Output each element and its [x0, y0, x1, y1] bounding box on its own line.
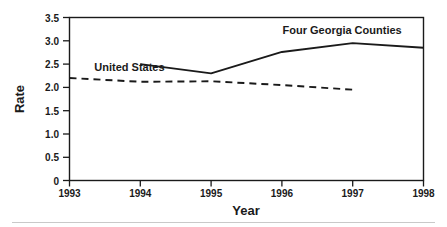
series-label-united-states: United States — [94, 61, 164, 73]
rate-by-year-line-chart: 3.5 3.0 2.5 2.0 1.5 1.0 0.5 0 1993 1994 … — [0, 0, 447, 227]
x-tick-label-1998: 1998 — [412, 188, 435, 199]
x-tick-label-1995: 1995 — [200, 188, 223, 199]
y-tick-label-3-0: 3.0 — [45, 36, 59, 47]
y-tick-label-2-5: 2.5 — [45, 59, 59, 70]
series-label-four-georgia-counties: Four Georgia Counties — [283, 24, 402, 36]
x-axis-tick-labels: 1993 1994 1995 1996 1997 1998 — [58, 188, 435, 199]
series-line-united-states — [70, 78, 353, 90]
y-tick-label-1-5: 1.5 — [45, 106, 59, 117]
y-tick-label-0-5: 0.5 — [45, 152, 59, 163]
series-line-four-georgia-counties — [140, 43, 423, 73]
x-tick-label-1993: 1993 — [58, 188, 81, 199]
y-tick-label-1-0: 1.0 — [45, 129, 59, 140]
plot-frame — [70, 18, 424, 181]
y-tick-label-0: 0 — [53, 176, 59, 187]
y-axis-title: Rate — [12, 85, 27, 113]
x-tick-label-1994: 1994 — [129, 188, 152, 199]
y-axis-tick-labels: 3.5 3.0 2.5 2.0 1.5 1.0 0.5 0 — [45, 13, 59, 187]
y-tick-label-3-5: 3.5 — [45, 13, 59, 24]
x-tick-label-1997: 1997 — [342, 188, 365, 199]
x-axis-title: Year — [232, 203, 259, 218]
y-tick-label-2-0: 2.0 — [45, 82, 59, 93]
x-axis-ticks — [70, 181, 424, 187]
y-axis-ticks — [63, 18, 70, 181]
x-tick-label-1996: 1996 — [271, 188, 294, 199]
